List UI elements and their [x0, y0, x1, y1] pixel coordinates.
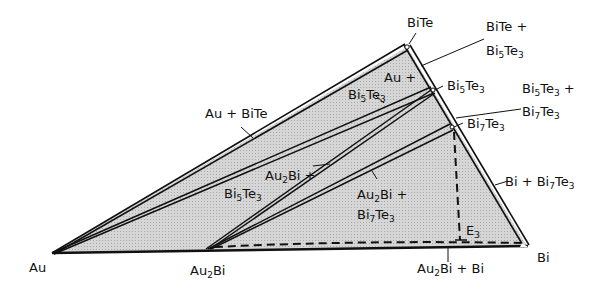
- label-bite: BiTe: [407, 15, 433, 30]
- label-bi: Bi: [537, 250, 550, 265]
- label-au-bite: Au + BiTe: [205, 106, 268, 121]
- phase-diagram: Au Au2Bi Bi BiTe Bi5Te3 Bi7Te3 Au + BiTe…: [0, 0, 609, 290]
- label-bi5te3-bi7te3-2: Bi7Te3: [522, 104, 560, 121]
- label-au-bi5te3-1: Au +: [384, 70, 416, 85]
- label-bi-bi7te3: Bi + Bi7Te3: [505, 174, 574, 191]
- vertex-bi7te3: [450, 125, 454, 129]
- vertex-bi5te3: [431, 88, 435, 92]
- label-bi5te3-vertex: Bi5Te3: [447, 78, 485, 95]
- label-bite-bi5te3-2: Bi5Te3: [486, 43, 524, 60]
- label-au2bi: Au2Bi: [190, 263, 225, 280]
- label-bi7te3-vertex: Bi7Te3: [467, 116, 505, 133]
- label-au2bi-bi: Au2Bi + Bi: [417, 261, 484, 278]
- label-au2bi-bi5te3-1: Au2Bi +: [265, 168, 315, 185]
- label-bi5te3-bi7te3-1: Bi5Te3 +: [522, 81, 575, 98]
- label-au2bi-bi7te3-1: Au2Bi +: [357, 187, 407, 204]
- label-bite-bi5te3-1: BiTe +: [486, 19, 527, 34]
- vertex-bite: [405, 45, 409, 49]
- label-au: Au: [29, 260, 46, 275]
